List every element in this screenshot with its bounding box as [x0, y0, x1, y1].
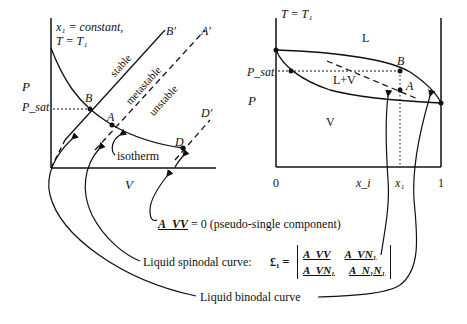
- point-D-label: D: [175, 136, 184, 148]
- region-V: V: [326, 116, 335, 128]
- region-L: L: [362, 32, 369, 44]
- x-tick-xi: x_i: [356, 177, 371, 189]
- x-tick-0: 0: [273, 177, 279, 189]
- line-end-B-prime: B′: [166, 25, 176, 37]
- right-axes: [276, 18, 441, 167]
- right-annotation: T = T₁: [281, 8, 312, 20]
- det-cell-00: A_VV: [303, 246, 331, 262]
- point-B-label: B: [85, 92, 92, 104]
- isotherm-label: isotherm: [117, 150, 159, 162]
- point-A-label: A: [107, 111, 114, 123]
- spinodal-symbol: £₁ =: [270, 256, 289, 268]
- spinodal-label: Liquid spinodal curve:: [143, 256, 252, 268]
- pseudo-single-symbol: A_VV: [158, 217, 188, 231]
- right-point-A: A: [406, 80, 413, 92]
- line-end-A-prime: A′: [201, 25, 211, 37]
- left-annotation-line1: x₁ = constant,: [56, 21, 123, 33]
- left-y-axis-label: P: [22, 80, 30, 93]
- spinodal-leader-left: [85, 149, 140, 261]
- spinodal-leader-right: [381, 96, 388, 255]
- left-x-axis-label: V: [125, 178, 133, 191]
- pseudo-single-annotation: A_VV = 0 (pseudo-single component): [158, 218, 341, 230]
- binodal-label: Liquid binodal curve: [200, 291, 301, 303]
- line-end-D-prime: D′: [201, 107, 212, 119]
- left-psat-label: P_sat: [22, 101, 49, 113]
- det-cell-01: A_VN₁: [345, 246, 377, 262]
- determinant-matrix: A_VVA_VN₁ A_VN₁A_N₁N₁: [297, 245, 391, 279]
- pseudo-leader: [150, 176, 167, 221]
- right-point-B: B: [397, 55, 404, 67]
- right-psat-label: P_sat: [247, 66, 274, 78]
- spinodal-line: [95, 30, 205, 150]
- left-annotation-line2: T = T₁: [56, 35, 87, 47]
- pseudo-single-text: = 0 (pseudo-single component): [191, 217, 341, 231]
- region-LV: L+V: [333, 74, 356, 86]
- right-y-label: P: [248, 94, 256, 107]
- diagram-canvas: [0, 0, 467, 324]
- det-cell-10: A_VN₁: [303, 262, 335, 278]
- x-tick-1: 1: [438, 177, 444, 189]
- x-tick-x1: x₁: [395, 177, 405, 189]
- det-cell-11: A_N₁N₁: [349, 262, 385, 278]
